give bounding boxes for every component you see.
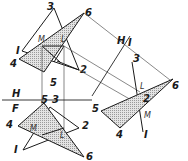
front-label-m: M [30, 124, 37, 133]
top-label-5: 5 [50, 77, 57, 88]
front-label-l: L [60, 131, 64, 140]
aux-label-1: I [144, 129, 148, 140]
front-label-6: 6 [86, 151, 93, 161]
fold-label-h: H [12, 88, 21, 99]
aux-label-3: 3 [133, 53, 140, 64]
projector-aux-3 [84, 13, 170, 80]
top-label-1: I [16, 45, 20, 56]
front-label-4: 4 [5, 119, 13, 130]
aux-label-5: 5 [92, 103, 99, 114]
top-label-m: M [38, 35, 45, 44]
top-label-4: 4 [9, 58, 17, 69]
top-label-2: 2 [80, 64, 87, 75]
aux-label-6: 6 [172, 80, 179, 91]
fold-label-f: F [12, 103, 19, 114]
aux-label-2: 2 [143, 93, 150, 104]
top-label-3: 3 [47, 1, 54, 12]
descriptive-geometry-diagram: 3 6 I 4 2 5 M L H F 5 3 4 2 I 6 M L H I [0, 0, 188, 161]
aux-label-m: M [144, 111, 151, 120]
aux-view: 3 6 5 4 2 I L M [92, 53, 179, 140]
front-label-1: I [14, 144, 18, 155]
top-label-l: L [61, 35, 65, 44]
aux-label-4: 4 [115, 129, 123, 140]
aux-label-l: L [140, 82, 144, 91]
aux-plane-456 [101, 79, 173, 128]
front-label-3: 3 [52, 94, 59, 105]
fold-label-h-aux: H [117, 35, 126, 46]
front-label-5: 5 [41, 94, 48, 105]
fold-label-1-aux: I [128, 37, 132, 48]
front-label-2: 2 [82, 120, 89, 131]
top-view: 3 6 I 4 2 5 M L [9, 1, 92, 88]
